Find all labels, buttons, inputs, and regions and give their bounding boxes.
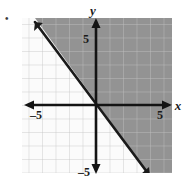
coordinate-plane-figure: x y –5 5 5 –5 • <box>0 0 190 195</box>
y-axis-label: y <box>88 3 96 18</box>
corner-bullet-mark: • <box>5 13 9 24</box>
x-tick-label-negative-5: –5 <box>29 108 42 122</box>
y-tick-label-5: 5 <box>83 32 89 46</box>
y-tick-label-negative-5: –5 <box>77 165 90 179</box>
x-axis-label: x <box>174 98 182 113</box>
x-tick-label-5: 5 <box>157 108 163 122</box>
